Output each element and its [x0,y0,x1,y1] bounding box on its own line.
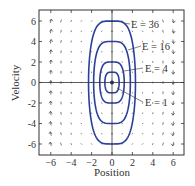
field-arrow [61,122,62,125]
field-arrow [152,123,153,125]
field-arrow [91,133,92,134]
y-tick-label: -2 [28,98,36,109]
field-arrow [122,31,123,32]
field-arrow [61,20,62,23]
field-arrow [122,41,123,42]
label-e36: E = 36 [131,19,159,30]
field-arrow [142,133,143,134]
field-arrow [122,123,123,124]
field-arrow [152,30,153,32]
field-arrow [71,20,72,22]
field-arrow [101,123,102,124]
field-arrow [81,20,82,21]
field-arrow [81,143,82,144]
y-tick-label: 0 [31,77,36,88]
field-arrow [71,30,72,32]
x-tick-label: 4 [150,157,155,168]
phase-portrait-chart: −6−4−20246-6-4-20246 E = 36 E = 16 E = 4… [0,0,195,186]
field-arrow [61,40,62,43]
field-arrow [122,133,123,134]
field-arrow [163,122,164,125]
label-e16: E = 16 [142,41,170,52]
y-tick-label: -6 [28,139,36,150]
field-arrow [101,133,102,134]
field-arrow [152,133,153,135]
y-tick-label: 6 [31,16,36,27]
field-arrow [91,20,92,21]
field-arrow [61,132,62,135]
field-arrow [132,133,133,134]
field-arrow [142,143,143,144]
field-arrow [132,31,133,32]
x-tick-label: 2 [130,157,135,168]
field-arrow [71,143,72,145]
label-e1: E = 1 [145,97,168,108]
field-arrow [71,41,72,43]
x-tick-label: 6 [171,157,176,168]
field-arrow [71,133,72,135]
field-arrow [81,123,82,124]
y-axis-label: Velocity [9,64,21,101]
field-arrow [152,143,153,145]
field-arrow [61,143,62,146]
x-tick-label: −4 [66,157,77,168]
field-arrow [163,143,164,146]
field-arrow [132,143,133,144]
y-tick-label: -4 [28,118,36,129]
field-arrow [81,41,82,42]
field-arrow [61,30,62,33]
field-arrow [101,31,102,32]
field-arrow [163,20,164,23]
field-arrow [163,30,164,33]
field-arrow [91,31,92,32]
field-arrow [71,123,72,125]
field-arrow [91,143,92,144]
field-arrow [142,123,143,124]
field-arrow [142,31,143,32]
label-e4: E = 4 [145,63,169,74]
x-tick-label: −6 [45,157,56,168]
y-tick-label: 4 [31,36,36,47]
field-arrow [101,41,102,42]
x-axis-label: Position [94,166,131,178]
field-arrow [81,133,82,134]
y-tick-label: 2 [31,57,36,68]
field-arrow [163,132,164,135]
field-arrow [81,31,82,32]
